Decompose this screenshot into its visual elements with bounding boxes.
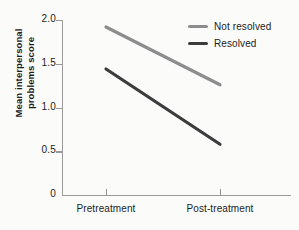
- y-tick-mark: [56, 64, 62, 65]
- legend-item-resolved: Resolved: [188, 37, 271, 49]
- legend-label-not-resolved: Not resolved: [214, 21, 271, 32]
- legend-label-resolved: Resolved: [214, 38, 257, 49]
- y-tick-mark: [56, 20, 62, 21]
- x-tick-mark: [220, 189, 221, 195]
- legend-item-not-resolved: Not resolved: [188, 20, 271, 32]
- x-tick-mark: [106, 189, 107, 195]
- legend: Not resolved Resolved: [188, 20, 271, 49]
- x-tick-label: Post-treatment: [187, 203, 254, 214]
- x-tick-label: Pretreatment: [76, 203, 135, 214]
- series-line: [106, 69, 220, 144]
- y-tick-mark: [56, 151, 62, 152]
- legend-swatch-not-resolved: [188, 25, 208, 28]
- y-tick-mark: [56, 108, 62, 109]
- line-chart: Mean interpersonal problems score 00.51.…: [0, 0, 299, 230]
- legend-swatch-resolved: [188, 42, 208, 45]
